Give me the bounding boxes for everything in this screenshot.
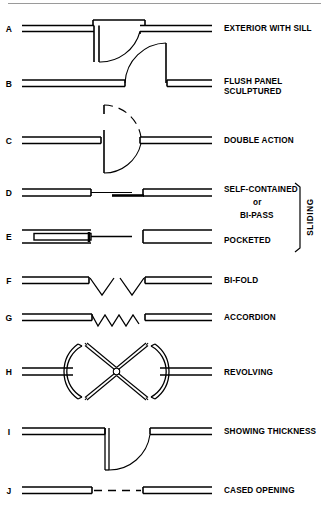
door-symbols-drawing: A B C D E F G H I J EXTERIOR WITH SILL F…	[0, 0, 329, 517]
row-letter-g: G	[6, 313, 13, 323]
label-exterior-with-sill: EXTERIOR WITH SILL	[224, 24, 312, 33]
row-letter-f: F	[6, 276, 11, 286]
row-letter-c: C	[6, 136, 12, 146]
row-letter-h: H	[6, 367, 12, 377]
row-letter-b: B	[6, 79, 12, 89]
door-symbols-sheet: A B C D E F G H I J EXTERIOR WITH SILL F…	[0, 0, 329, 517]
label-bi-pass: BI-PASS	[240, 211, 274, 220]
label-self-contained: SELF-CONTAINED	[224, 185, 298, 194]
label-bi-fold: BI-FOLD	[224, 276, 258, 285]
row-letter-j: J	[7, 486, 12, 496]
label-cased-opening: CASED OPENING	[224, 486, 295, 495]
symbol-showing-thickness	[22, 428, 212, 470]
label-revolving: REVOLVING	[224, 368, 273, 377]
row-letter-d: D	[6, 188, 12, 198]
label-showing-thickness: SHOWING THICKNESS	[224, 427, 317, 436]
row-letter-a: A	[6, 24, 12, 34]
row-letter-i: I	[8, 427, 11, 437]
symbol-pocketed	[22, 230, 212, 243]
label-accordion: ACCORDION	[224, 313, 276, 322]
symbol-self-contained-bi-pass	[22, 189, 212, 196]
label-self-contained-or: or	[253, 198, 262, 207]
symbol-cased-opening	[22, 487, 212, 494]
label-flush-panel-line2: SCULPTURED	[224, 87, 281, 96]
symbol-exterior-with-sill	[22, 20, 212, 62]
label-flush-panel-line1: FLUSH PANEL	[224, 77, 282, 86]
symbol-revolving	[22, 343, 212, 400]
label-double-action: DOUBLE ACTION	[224, 136, 294, 145]
row-letter-e: E	[6, 232, 12, 242]
sliding-group-label: SLIDING	[306, 198, 315, 235]
symbol-flush-panel-sculptured	[22, 43, 212, 87]
symbol-accordion	[22, 314, 212, 326]
symbol-double-action	[22, 105, 212, 173]
symbol-bi-fold	[22, 277, 212, 295]
label-pocketed: POCKETED	[224, 236, 271, 245]
